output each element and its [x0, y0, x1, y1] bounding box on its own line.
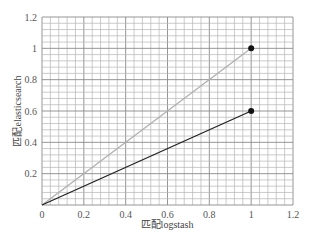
x-tick-label: 1.2: [287, 209, 300, 220]
x-tick-label: 0.4: [119, 209, 132, 220]
y-tick-label: 0.6: [25, 106, 38, 117]
black-series-marker: [248, 108, 254, 114]
x-tick-label: 0: [40, 209, 45, 220]
chart: 00.20.40.60.811.2 0.20.40.60.811.2 匹配log…: [0, 0, 309, 251]
y-tick-label: 1.2: [25, 12, 38, 23]
data-series: [42, 45, 254, 205]
y-tick-label: 0.8: [25, 74, 38, 85]
y-tick-label: 0.2: [25, 168, 38, 179]
x-axis-label: 匹配logstash: [141, 219, 194, 230]
y-tick-label: 1: [32, 43, 37, 54]
gray-series-marker: [248, 45, 254, 51]
gray-series-line: [42, 48, 251, 205]
y-axis-label: 匹配elasticsearch: [12, 75, 23, 146]
y-axis-ticks: 0.20.40.60.811.2: [25, 12, 38, 180]
x-tick-label: 0.2: [78, 209, 91, 220]
black-series-line: [42, 111, 251, 205]
x-tick-label: 0.8: [203, 209, 216, 220]
y-tick-label: 0.4: [25, 137, 38, 148]
x-tick-label: 1: [249, 209, 254, 220]
